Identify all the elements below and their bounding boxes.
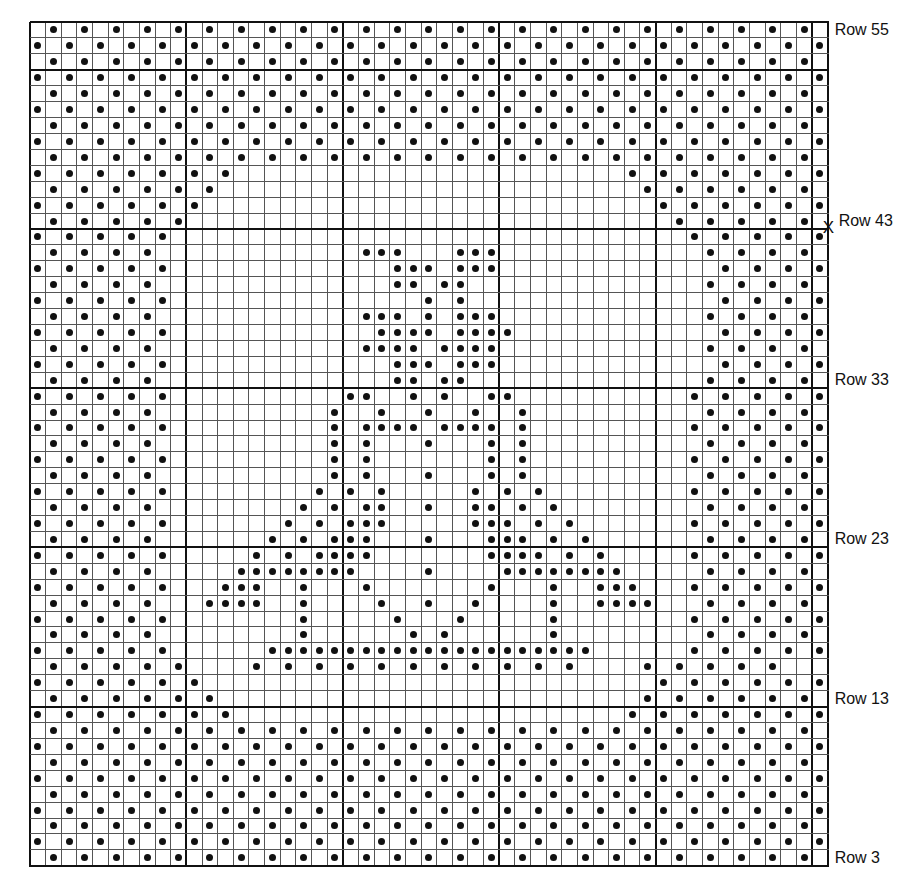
chart-dot <box>566 42 573 49</box>
chart-dot <box>472 42 479 49</box>
chart-dot <box>394 759 401 766</box>
chart-dot <box>410 265 417 272</box>
chart-dot <box>378 647 385 654</box>
chart-dot <box>441 345 448 352</box>
chart-dot <box>660 74 667 81</box>
chart-dot <box>394 345 401 352</box>
chart-dot <box>691 647 698 654</box>
chart-dot <box>582 26 589 33</box>
chart-dot <box>97 743 104 750</box>
chart-dot <box>644 695 651 702</box>
chart-dot <box>159 393 166 400</box>
chart-dot <box>816 552 823 559</box>
chart-dot <box>34 838 41 845</box>
chart-dot <box>535 647 542 654</box>
chart-dot <box>425 313 432 320</box>
chart-dot <box>113 186 120 193</box>
chart-dot <box>269 536 276 543</box>
chart-dot <box>441 663 448 670</box>
chart-dot <box>159 106 166 113</box>
chart-dot <box>113 727 120 734</box>
chart-dot <box>347 74 354 81</box>
chart-dot <box>519 440 526 447</box>
chart-dot <box>363 822 370 829</box>
chart-dot <box>488 361 495 368</box>
chart-dot <box>410 106 417 113</box>
chart-dot <box>269 154 276 161</box>
chart-dot <box>175 727 182 734</box>
chart-dot <box>159 138 166 145</box>
chart-dot <box>159 202 166 209</box>
chart-dot <box>816 424 823 431</box>
chart-dot <box>801 345 808 352</box>
chart-dot <box>300 584 307 591</box>
chart-dot <box>128 170 135 177</box>
chart-dot <box>566 743 573 750</box>
chart-dot <box>754 743 761 750</box>
chart-dot <box>191 711 198 718</box>
chart-dot <box>488 154 495 161</box>
chart-dot <box>300 90 307 97</box>
chart-dot <box>613 584 620 591</box>
chart-dot <box>347 647 354 654</box>
chart-dot <box>707 218 714 225</box>
chart-dot <box>816 520 823 527</box>
chart-dot <box>50 504 57 511</box>
chart-dot <box>394 313 401 320</box>
chart-dot <box>378 743 385 750</box>
chart-dot <box>488 504 495 511</box>
chart-dot <box>285 838 292 845</box>
chart-dot <box>785 393 792 400</box>
chart-dot <box>425 154 432 161</box>
chart-dot <box>613 600 620 607</box>
chart-dot <box>113 504 120 511</box>
chart-dot <box>769 313 776 320</box>
chart-dot <box>504 42 511 49</box>
chart-dot <box>722 616 729 623</box>
chart-dot <box>676 822 683 829</box>
chart-dot <box>629 711 636 718</box>
row-line <box>30 722 829 723</box>
chart-dot <box>425 58 432 65</box>
chart-dot <box>97 202 104 209</box>
chart-dot <box>378 600 385 607</box>
chart-dot <box>488 854 495 861</box>
row-line <box>30 308 829 309</box>
chart-dot <box>81 281 88 288</box>
chart-dot <box>378 329 385 336</box>
chart-dot <box>425 647 432 654</box>
chart-dot <box>66 297 73 304</box>
chart-dot <box>691 807 698 814</box>
row-line <box>30 833 829 834</box>
chart-dot <box>707 281 714 288</box>
chart-dot <box>128 552 135 559</box>
chart-dot <box>566 568 573 575</box>
chart-dot <box>191 807 198 814</box>
chart-dot <box>785 456 792 463</box>
chart-dot <box>550 584 557 591</box>
chart-dot <box>316 775 323 782</box>
chart-dot <box>425 440 432 447</box>
chart-dot <box>691 393 698 400</box>
chart-dot <box>144 122 151 129</box>
chart-dot <box>159 711 166 718</box>
chart-dot <box>331 552 338 559</box>
chart-dot <box>144 154 151 161</box>
chart-dot <box>722 807 729 814</box>
chart-dot <box>707 154 714 161</box>
chart-dot <box>363 456 370 463</box>
chart-dot <box>769 727 776 734</box>
chart-dot <box>488 265 495 272</box>
chart-dot <box>378 313 385 320</box>
chart-dot <box>113 90 120 97</box>
chart-dot <box>566 74 573 81</box>
chart-dot <box>159 807 166 814</box>
chart-dot <box>97 711 104 718</box>
chart-dot <box>175 58 182 65</box>
chart-dot <box>472 313 479 320</box>
chart-dot <box>144 249 151 256</box>
chart-dot <box>113 409 120 416</box>
chart-dot <box>644 791 651 798</box>
chart-dot <box>597 106 604 113</box>
chart-dot <box>425 536 432 543</box>
